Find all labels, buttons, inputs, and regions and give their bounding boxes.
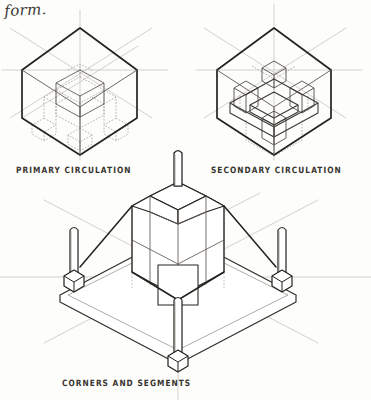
caption-corners-and-segments: CORNERS AND SEGMENTS: [62, 378, 191, 389]
caption-secondary-circulation: SECONDARY CIRCULATION: [211, 165, 342, 176]
central-mast: [174, 151, 182, 187]
caption-primary-circulation: PRIMARY CIRCULATION: [16, 165, 132, 176]
corner-column-right: [272, 228, 292, 293]
sheet-note: form.: [4, 0, 47, 20]
corner-column-left: [64, 228, 84, 293]
figure-corners-and-segments: [0, 0, 371, 400]
sketch-sheet: form. PRIMARY CIRCULATION SECONDARY CIRC…: [0, 0, 371, 400]
